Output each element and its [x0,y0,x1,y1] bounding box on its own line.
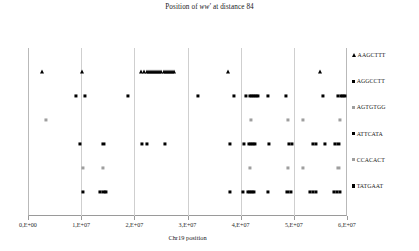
legend-item-aagcttt[interactable]: AAGCTTT [352,52,385,58]
legend-item-label: AAGCTTT [358,52,386,58]
data-point [102,142,105,145]
x-axis-tick-mark [81,216,82,220]
data-point [228,142,231,145]
data-point [141,142,144,145]
data-point [252,190,255,193]
x-axis-tick-mark [28,216,29,220]
x-axis-tick-mark [294,216,295,220]
x-axis-tick-label: 3,E+07 [179,222,197,228]
data-point [314,190,317,193]
data-point [343,94,346,97]
data-point [291,142,294,145]
x-axis-tick-mark [347,216,348,220]
x-axis-tick-label: 2,E+07 [125,222,143,228]
data-point [40,70,44,74]
x-axis-tick-label: 6,E+07 [338,222,356,228]
data-point [82,166,85,169]
legend-item-agtgtgg[interactable]: AGTGTGG [352,104,386,110]
data-point [339,190,342,193]
legend-item-aggcctt[interactable]: AGGCCTT [352,78,385,84]
data-point [286,118,289,121]
legend-item-label: TATGAAT [357,183,383,189]
square-marker-icon [352,80,355,83]
data-point [321,94,324,97]
legend-item-ccacact[interactable]: CCACACT [352,157,385,163]
data-point [81,190,84,193]
x-axis-tick-mark [241,216,242,220]
data-point [74,94,77,97]
data-point [196,94,199,97]
data-point [79,142,82,145]
data-point [339,118,342,121]
data-point [315,142,318,145]
legend-item-tatgaat[interactable]: TATGAAT [352,183,383,189]
data-point [80,70,84,74]
triangle-marker-icon [352,53,356,57]
gridline [134,48,135,216]
data-point [337,142,340,145]
square-marker-icon [352,184,355,187]
data-point [232,94,235,97]
data-point [302,118,305,121]
data-point [324,142,327,145]
legend-item-label: ATTCATA [357,131,383,137]
square-marker-icon [352,158,355,161]
data-point [242,142,245,145]
data-point [318,70,322,74]
data-point [284,94,287,97]
data-point [248,166,251,169]
chart-title-italic-term: ww' [200,3,211,11]
data-point [253,142,256,145]
data-point [337,166,340,169]
data-point [45,118,48,121]
data-point [267,94,270,97]
plot-area: 0,E+001,E+072,E+073,E+074,E+075,E+076,E+… [28,48,347,216]
data-point [163,142,166,145]
data-point [226,70,230,74]
legend-item-label: AGGCCTT [357,78,385,84]
square-marker-icon [352,106,355,109]
data-point [126,94,129,97]
data-point [105,190,108,193]
data-point [301,166,304,169]
data-point [172,70,176,74]
x-axis-title: Chr19 position [28,234,347,241]
gridline [188,48,189,216]
legend-item-label: AGTGTGG [357,104,386,110]
chart-title: Position of ww' at distance 84 [0,3,419,11]
data-point [257,94,260,97]
data-point [101,166,104,169]
chart-title-suffix: at distance 84 [211,3,254,11]
x-axis-tick-label: 1,E+07 [72,222,90,228]
data-point [286,166,289,169]
data-point [145,142,148,145]
data-point [83,94,86,97]
data-point [249,118,252,121]
data-point [242,190,245,193]
x-axis-tick-mark [134,216,135,220]
x-axis-tick-label: 0,E+00 [19,222,37,228]
x-axis-tick-label: 4,E+07 [232,222,250,228]
chart-title-prefix: Position of [165,3,199,11]
x-axis-tick-label: 5,E+07 [285,222,303,228]
data-point [244,94,247,97]
data-point [267,142,270,145]
data-point [289,190,292,193]
legend-item-attcata[interactable]: ATTCATA [352,131,383,137]
data-point [267,190,270,193]
chart-container: Position of ww' at distance 84 0,E+001,E… [0,0,419,251]
data-point [228,190,231,193]
x-axis-tick-mark [188,216,189,220]
legend-item-label: CCACACT [357,157,385,163]
square-marker-icon [352,132,355,135]
gridline [294,48,295,216]
